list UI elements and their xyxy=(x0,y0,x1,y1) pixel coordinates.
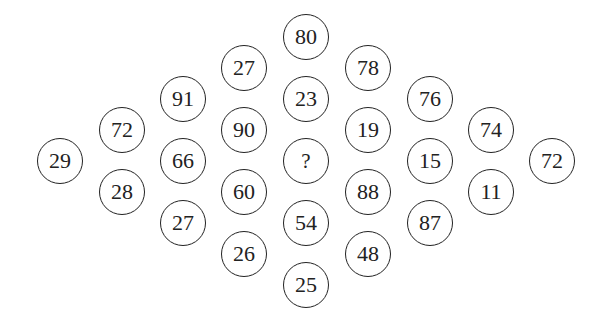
circle-value: 27 xyxy=(172,212,194,234)
number-circle: 15 xyxy=(407,138,453,184)
circle-value: 88 xyxy=(357,181,379,203)
circle-value: 60 xyxy=(233,181,255,203)
circle-value: 19 xyxy=(357,119,379,141)
number-circle: 26 xyxy=(221,231,267,277)
circle-value: 26 xyxy=(233,243,255,265)
unknown-number-circle: ? xyxy=(283,138,329,184)
circle-value: 15 xyxy=(419,150,441,172)
number-circle: 72 xyxy=(99,107,145,153)
number-circle: 23 xyxy=(283,76,329,122)
number-circle: 27 xyxy=(221,45,267,91)
circle-value: 23 xyxy=(295,88,317,110)
number-circle: 25 xyxy=(283,262,329,308)
circle-value: 54 xyxy=(295,212,317,234)
number-circle: 28 xyxy=(99,169,145,215)
number-circle: 60 xyxy=(221,169,267,215)
circle-value: 29 xyxy=(49,150,71,172)
circle-value: 66 xyxy=(172,150,194,172)
circle-value: 28 xyxy=(111,181,133,203)
circle-value: 72 xyxy=(111,119,133,141)
number-circle: 72 xyxy=(529,138,575,184)
circle-value: 91 xyxy=(172,88,194,110)
number-circle: 87 xyxy=(407,200,453,246)
circle-value: 74 xyxy=(480,119,502,141)
circle-value: 90 xyxy=(233,119,255,141)
circle-value: 48 xyxy=(357,243,379,265)
circle-value: 87 xyxy=(419,212,441,234)
number-circle: 19 xyxy=(345,107,391,153)
circle-value: 11 xyxy=(480,181,501,203)
circle-value: 78 xyxy=(357,57,379,79)
number-circle: 48 xyxy=(345,231,391,277)
circle-value: 27 xyxy=(233,57,255,79)
number-circle: 27 xyxy=(160,200,206,246)
number-circle: 78 xyxy=(345,45,391,91)
circle-value: 72 xyxy=(541,150,563,172)
number-circle: 80 xyxy=(283,14,329,60)
circle-value: 76 xyxy=(419,88,441,110)
number-circle: 88 xyxy=(345,169,391,215)
number-diamond-puzzle: 297228916627279060268023?542578198848761… xyxy=(0,0,612,325)
circle-value: 25 xyxy=(295,274,317,296)
circle-value: ? xyxy=(301,151,310,172)
number-circle: 91 xyxy=(160,76,206,122)
number-circle: 90 xyxy=(221,107,267,153)
number-circle: 76 xyxy=(407,76,453,122)
number-circle: 66 xyxy=(160,138,206,184)
number-circle: 29 xyxy=(37,138,83,184)
circle-value: 80 xyxy=(295,26,317,48)
number-circle: 11 xyxy=(468,169,514,215)
number-circle: 54 xyxy=(283,200,329,246)
number-circle: 74 xyxy=(468,107,514,153)
